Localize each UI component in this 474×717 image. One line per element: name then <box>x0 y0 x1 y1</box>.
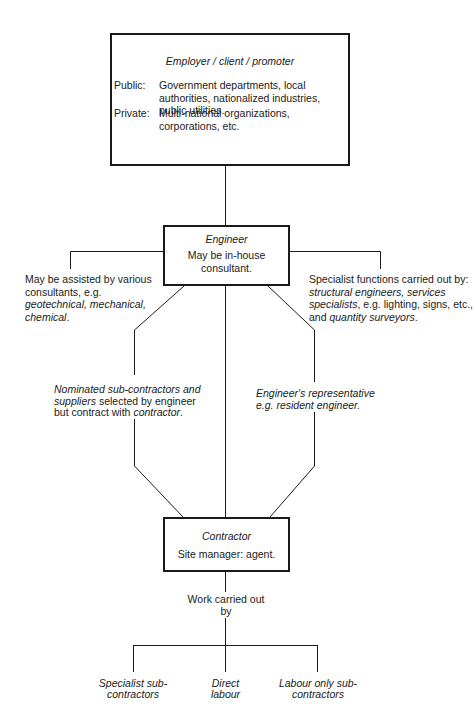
nominated-note-end: . <box>180 406 183 418</box>
contractor-title: Contractor <box>165 530 288 543</box>
nominated-subcontractors-note: Nominated sub-contractors and suppliers … <box>54 384 204 419</box>
contractor-box: Contractor Site manager: agent. <box>163 517 290 572</box>
work-type-labour-only-subcontractors: Labour only sub-contractors <box>272 678 364 700</box>
contractor-subtitle: Site manager: agent. <box>165 548 288 561</box>
engineers-representative-note: Engineer's representative e.g. resident … <box>256 388 391 411</box>
consultants-note-end: . <box>66 311 69 323</box>
nominated-note-contractor: contractor <box>133 406 180 418</box>
public-label: Public: <box>114 79 146 92</box>
employer-title: Employer / client / promoter <box>112 55 348 68</box>
consultants-note-types: geotechnical, mechanical, chemical <box>25 298 146 323</box>
consultants-note: May be assisted by various consultants, … <box>25 273 153 323</box>
private-label: Private: <box>114 107 150 120</box>
work-type-direct-labour: Direct labour <box>198 678 253 700</box>
consultants-note-text: May be assisted by various consultants, … <box>25 273 152 298</box>
specialist-functions-note: Specialist functions carried out by: str… <box>309 273 474 323</box>
specialist-note-end: . <box>415 311 418 323</box>
engineer-subtitle: May be in-house consultant. <box>177 249 276 275</box>
private-value: Multi-national organizations, corporatio… <box>159 107 344 132</box>
engineer-box: Engineer May be in-house consultant. <box>163 225 290 286</box>
engineer-title: Engineer <box>165 233 288 246</box>
work-type-specialist-subcontractors: Specialist sub-contractors <box>90 678 176 700</box>
employer-box: Employer / client / promoter Public: Gov… <box>110 33 350 166</box>
specialist-note-qs: quantity surveyors <box>329 311 414 323</box>
specialist-note-text: Specialist functions carried out by: <box>309 273 468 285</box>
work-carried-out-label: Work carried out by <box>185 593 267 617</box>
